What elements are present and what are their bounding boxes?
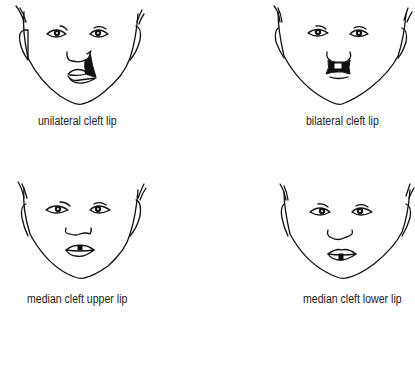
- caption: median cleft lower lip: [303, 292, 402, 306]
- panel-unilateral-cleft-lip: unilateral cleft lip: [0, 0, 160, 135]
- caption: median cleft upper lip: [27, 292, 127, 306]
- eyes: [310, 204, 372, 215]
- face-illustration-median-lower: [280, 178, 415, 298]
- face-illustration-bilateral: [270, 0, 415, 120]
- panel-bilateral-cleft-lip: bilateral cleft lip: [270, 0, 415, 135]
- face-illustration-unilateral: [0, 0, 160, 120]
- caption: unilateral cleft lip: [38, 114, 117, 128]
- eyes: [47, 26, 108, 37]
- caption: bilateral cleft lip: [306, 114, 379, 128]
- panel-median-cleft-upper-lip: median cleft upper lip: [0, 178, 160, 313]
- panel-median-cleft-lower-lip: median cleft lower lip: [280, 178, 415, 313]
- eyes: [308, 26, 368, 37]
- eyes: [46, 202, 110, 213]
- face-illustration-median-upper: [0, 178, 160, 298]
